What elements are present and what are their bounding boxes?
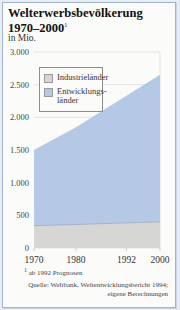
developing-swatch [44, 88, 53, 97]
svg-text:1980: 1980 [67, 255, 86, 265]
source-note: Quelle: Weltbank, Weltentwicklungsberich… [18, 281, 168, 299]
svg-text:1992: 1992 [117, 255, 136, 265]
svg-text:3.000: 3.000 [10, 47, 29, 57]
svg-text:0: 0 [25, 243, 29, 253]
svg-text:2000: 2000 [151, 255, 170, 265]
area-chart: 3.0002.5002.0001.5001.0005000 1970198019… [0, 0, 180, 310]
industrial-area [34, 222, 160, 248]
legend: Industrieländer Entwicklungs-länder [39, 67, 103, 112]
svg-text:500: 500 [16, 210, 29, 220]
svg-text:2.000: 2.000 [10, 112, 29, 122]
svg-text:2.500: 2.500 [10, 80, 29, 90]
svg-text:1970: 1970 [25, 255, 44, 265]
x-axis-ticks: 1970198019922000 [25, 248, 170, 265]
svg-text:1.000: 1.000 [10, 178, 29, 188]
svg-text:1.500: 1.500 [10, 145, 29, 155]
footnote: 1 ab 1992 Prognosen [24, 267, 82, 277]
y-axis-ticks: 3.0002.5002.0001.5001.0005000 [10, 47, 29, 253]
industrial-swatch [44, 74, 53, 83]
